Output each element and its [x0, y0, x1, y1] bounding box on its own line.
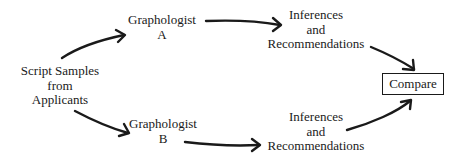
graphologist-a-line-1: Graphologist [128, 13, 196, 28]
script-samples-line-2: from [21, 79, 99, 94]
script-samples-line-1: Script Samples [21, 64, 99, 79]
inferences-a-node: Inferences and Recommendations [268, 8, 365, 52]
graphologist-b-node: Graphologist B [129, 117, 197, 146]
inferences-b-line-3: Recommendations [268, 139, 365, 154]
inferences-a-line-3: Recommendations [268, 37, 365, 52]
graphologist-b-line-2: B [129, 132, 197, 147]
inferences-a-line-1: Inferences [268, 8, 365, 23]
arrow-source-to-graphologist-a [62, 35, 124, 58]
graphologist-a-node: Graphologist A [128, 13, 196, 42]
inferences-b-line-1: Inferences [268, 110, 365, 125]
graphologist-b-line-1: Graphologist [129, 117, 197, 132]
script-samples-node: Script Samples from Applicants [21, 64, 99, 108]
script-samples-line-3: Applicants [21, 93, 99, 108]
graphologist-a-line-2: A [128, 28, 196, 43]
arrow-source-to-graphologist-b [75, 111, 128, 133]
inferences-b-node: Inferences and Recommendations [268, 110, 365, 154]
inferences-b-line-2: and [268, 125, 365, 140]
compare-box: Compare [382, 73, 444, 95]
arrow-inferences-a-to-compare [371, 47, 414, 69]
inferences-a-line-2: and [268, 23, 365, 38]
compare-label: Compare [389, 76, 437, 91]
